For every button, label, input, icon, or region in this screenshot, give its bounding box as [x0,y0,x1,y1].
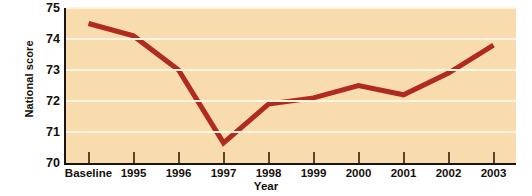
y-axis-tick-labels: 707172737475 [32,0,60,196]
x-tick-label: 2000 [346,167,372,179]
y-tick-label: 72 [34,95,60,108]
x-tick-mark [493,152,495,163]
x-tick-label: 1998 [256,167,282,179]
x-tick-label: Baseline [65,167,112,179]
x-axis-line [64,163,516,165]
x-tick-mark [313,152,315,163]
gridline [66,100,516,102]
gridline [66,69,516,71]
series-line-national-score [66,8,516,163]
x-tick-label: 1995 [121,167,147,179]
x-tick-mark [358,152,360,163]
x-tick-mark [133,152,135,163]
x-tick-mark [448,152,450,163]
x-tick-label: 2001 [391,167,417,179]
x-tick-label: 1999 [301,167,327,179]
gridline [66,38,516,40]
plot-area [66,8,516,163]
line-chart: National score 707172737475 Year Baselin… [0,0,532,196]
x-tick-mark [178,152,180,163]
gridline [66,7,516,9]
x-tick-label: 1996 [166,167,192,179]
x-tick-mark [268,152,270,163]
x-tick-mark [88,152,90,163]
y-tick-label: 70 [34,157,60,170]
y-tick-label: 73 [34,64,60,77]
x-tick-mark [403,152,405,163]
y-tick-label: 71 [34,126,60,139]
x-tick-mark [223,152,225,163]
y-tick-label: 74 [34,33,60,46]
gridline [66,131,516,133]
x-tick-label: 2003 [481,167,507,179]
x-tick-label: 2002 [436,167,462,179]
x-tick-label: 1997 [211,167,237,179]
x-axis-title: Year [0,180,532,192]
y-tick-label: 75 [34,2,60,15]
